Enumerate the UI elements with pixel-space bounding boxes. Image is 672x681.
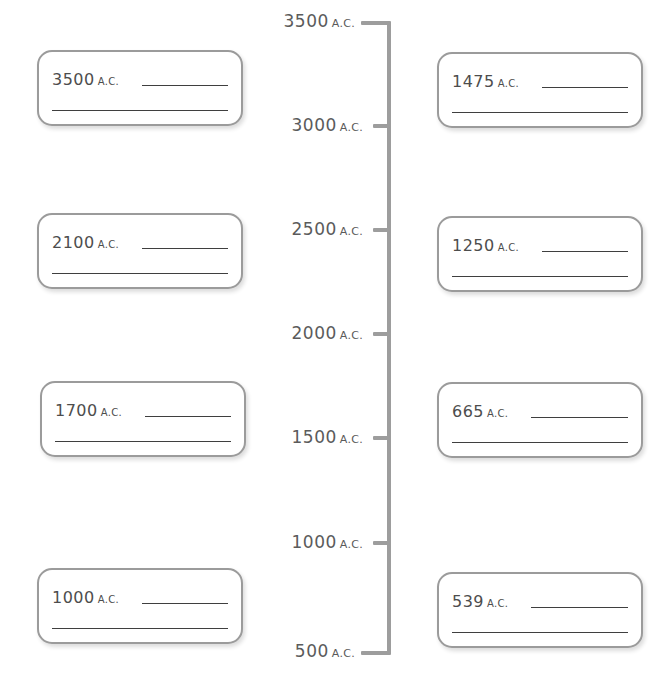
axis-label-1000: 1000A.C. [200, 534, 363, 551]
axis-label-1000-value: 1000 [292, 532, 337, 552]
event-box-right-1250-label: 1250A.C. [452, 238, 519, 254]
event-box-left-3500-value: 3500 [52, 70, 95, 89]
event-box-left-1700-inner: 1700A.C. [42, 383, 244, 455]
event-box-right-665-inner: 665A.C. [439, 384, 641, 456]
event-box-right-1475[interactable]: 1475A.C. [437, 52, 643, 128]
event-box-right-1250[interactable]: 1250A.C. [437, 216, 643, 292]
event-box-left-2100-inner: 2100A.C. [39, 215, 241, 287]
event-box-right-1475-label: 1475A.C. [452, 74, 519, 90]
event-box-right-539-era: A.C. [487, 598, 508, 609]
event-box-left-1700-label: 1700A.C. [55, 403, 122, 419]
event-box-right-539-inner: 539A.C. [439, 574, 641, 646]
event-box-right-665-value: 665 [452, 402, 484, 421]
event-box-left-1700-answer-line-1[interactable] [145, 416, 231, 417]
event-box-left-1700[interactable]: 1700A.C. [40, 381, 246, 457]
axis-label-3500-era: A.C. [332, 17, 355, 30]
event-box-right-1250-answer-line-2[interactable] [452, 276, 628, 277]
event-box-right-1250-era: A.C. [498, 242, 519, 253]
axis-tick-3500 [361, 21, 389, 25]
event-box-right-539[interactable]: 539A.C. [437, 572, 643, 648]
event-box-left-1000-value: 1000 [52, 588, 95, 607]
axis-label-500-value: 500 [295, 641, 329, 661]
axis-tick-2500 [373, 228, 390, 232]
event-box-right-665-answer-line-1[interactable] [531, 417, 628, 418]
event-box-left-2100[interactable]: 2100A.C. [37, 213, 243, 289]
event-box-right-1250-answer-line-1[interactable] [542, 251, 628, 252]
axis-label-2000-era: A.C. [340, 329, 363, 342]
event-box-right-539-answer-line-2[interactable] [452, 632, 628, 633]
axis-label-2500-era: A.C. [340, 225, 363, 238]
event-box-left-1000-era: A.C. [98, 594, 119, 605]
event-box-left-1000-label: 1000A.C. [52, 590, 119, 606]
axis-label-1500-value: 1500 [292, 427, 337, 447]
axis-label-2000: 2000A.C. [200, 325, 363, 342]
axis-tick-1500 [373, 436, 390, 440]
event-box-left-2100-era: A.C. [98, 239, 119, 250]
axis-tick-1000 [373, 541, 390, 545]
event-box-left-1700-answer-line-2[interactable] [55, 441, 231, 442]
event-box-left-3500-inner: 3500A.C. [39, 52, 241, 124]
event-box-right-1250-value: 1250 [452, 236, 495, 255]
event-box-left-1700-value: 1700 [55, 401, 98, 420]
event-box-right-1475-inner: 1475A.C. [439, 54, 641, 126]
axis-label-3000-era: A.C. [340, 121, 363, 134]
event-box-left-1000-inner: 1000A.C. [39, 570, 241, 642]
event-box-left-3500-label: 3500A.C. [52, 72, 119, 88]
event-box-right-665-answer-line-2[interactable] [452, 442, 628, 443]
event-box-left-1000[interactable]: 1000A.C. [37, 568, 243, 644]
event-box-right-539-value: 539 [452, 592, 484, 611]
axis-label-2500-value: 2500 [292, 219, 337, 239]
event-box-left-2100-label: 2100A.C. [52, 235, 119, 251]
event-box-right-1475-era: A.C. [498, 78, 519, 89]
event-box-left-3500-answer-line-1[interactable] [142, 85, 228, 86]
axis-label-3500: 3500A.C. [200, 13, 355, 30]
event-box-left-1000-answer-line-2[interactable] [52, 628, 228, 629]
event-box-right-539-answer-line-1[interactable] [531, 607, 628, 608]
axis-label-2000-value: 2000 [292, 323, 337, 343]
event-box-right-539-label: 539A.C. [452, 594, 508, 610]
axis-label-3000-value: 3000 [292, 115, 337, 135]
event-box-left-3500-era: A.C. [98, 76, 119, 87]
event-box-right-1475-answer-line-2[interactable] [452, 112, 628, 113]
timeline-axis-line [387, 21, 391, 655]
axis-tick-3000 [373, 124, 390, 128]
axis-label-1000-era: A.C. [340, 538, 363, 551]
event-box-right-1250-inner: 1250A.C. [439, 218, 641, 290]
event-box-right-1475-value: 1475 [452, 72, 495, 91]
axis-label-500: 500A.C. [200, 643, 355, 660]
event-box-left-3500-answer-line-2[interactable] [52, 110, 228, 111]
axis-label-500-era: A.C. [332, 647, 355, 660]
axis-tick-500 [361, 651, 389, 655]
event-box-right-665[interactable]: 665A.C. [437, 382, 643, 458]
event-box-left-1000-answer-line-1[interactable] [142, 603, 228, 604]
axis-label-1500-era: A.C. [340, 433, 363, 446]
event-box-right-1475-answer-line-1[interactable] [542, 87, 628, 88]
event-box-left-2100-answer-line-2[interactable] [52, 273, 228, 274]
axis-tick-2000 [373, 332, 390, 336]
event-box-left-1700-era: A.C. [101, 407, 122, 418]
event-box-right-665-label: 665A.C. [452, 404, 508, 420]
event-box-right-665-era: A.C. [487, 408, 508, 419]
timeline-worksheet: 3500A.C. 3000A.C. 2500A.C. 2000A.C. 1500… [0, 0, 672, 681]
event-box-left-2100-answer-line-1[interactable] [142, 248, 228, 249]
axis-label-3500-value: 3500 [284, 11, 329, 31]
event-box-left-2100-value: 2100 [52, 233, 95, 252]
event-box-left-3500[interactable]: 3500A.C. [37, 50, 243, 126]
